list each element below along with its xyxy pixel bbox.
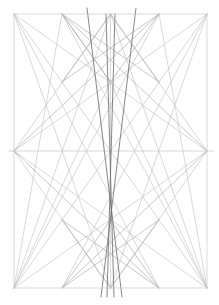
diagram-canvas [0,0,219,305]
line-construction-svg [0,0,219,305]
